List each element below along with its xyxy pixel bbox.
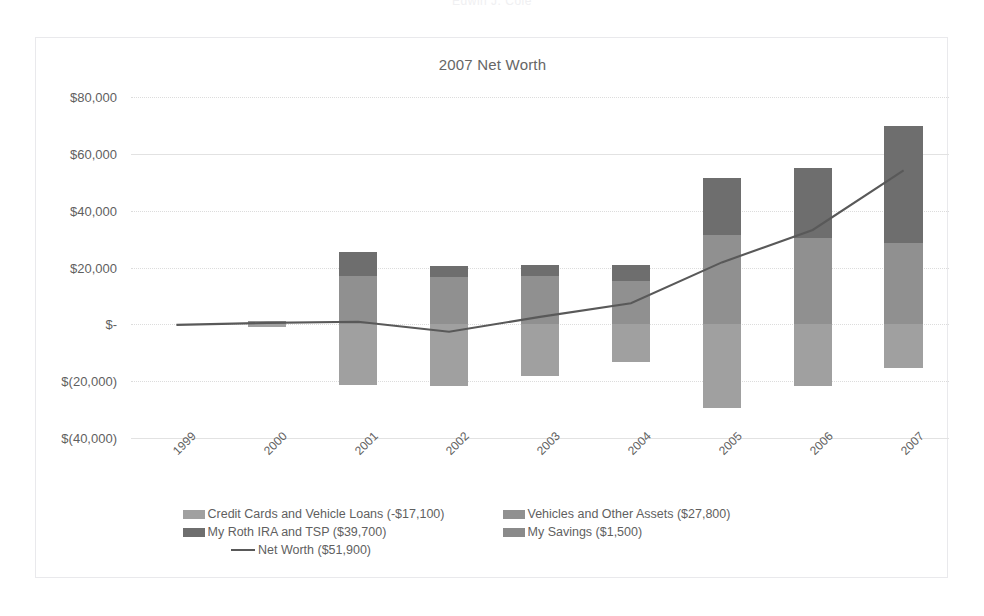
- legend-item[interactable]: Vehicles and Other Assets ($27,800): [503, 507, 803, 521]
- legend-row: My Roth IRA and TSP ($39,700)My Savings …: [36, 525, 949, 539]
- y-axis-tick: $20,000: [70, 260, 117, 275]
- y-axis-tick: $-: [105, 317, 117, 332]
- legend-label: My Savings ($1,500): [528, 525, 643, 539]
- legend-swatch-icon: [503, 510, 525, 519]
- legend-item[interactable]: Net Worth ($51,900): [231, 543, 371, 557]
- y-axis-tick: $(20,000): [61, 374, 117, 389]
- legend-row: Net Worth ($51,900): [36, 543, 949, 557]
- legend-swatch-icon: [183, 510, 205, 519]
- y-axis-tick: $80,000: [70, 90, 117, 105]
- legend-label: Vehicles and Other Assets ($27,800): [528, 507, 731, 521]
- chart-container: 2007 Net Worth $80,000$60,000$40,000$20,…: [35, 37, 948, 578]
- chart-title: 2007 Net Worth: [36, 56, 949, 73]
- legend-item[interactable]: My Roth IRA and TSP ($39,700): [183, 525, 503, 539]
- legend-row: Credit Cards and Vehicle Loans (-$17,100…: [36, 507, 949, 521]
- legend-item[interactable]: Credit Cards and Vehicle Loans (-$17,100…: [183, 507, 503, 521]
- legend-swatch-icon: [503, 528, 525, 537]
- legend-label: Net Worth ($51,900): [258, 543, 371, 557]
- chart-legend: Credit Cards and Vehicle Loans (-$17,100…: [36, 507, 949, 561]
- legend-swatch-icon: [183, 528, 205, 537]
- plot-area: $80,000$60,000$40,000$20,000$-$(20,000)$…: [131, 97, 949, 438]
- legend-label: My Roth IRA and TSP ($39,700): [208, 525, 387, 539]
- clipped-header-text: Edwin J. Cole: [0, 0, 984, 8]
- y-axis-tick: $60,000: [70, 146, 117, 161]
- legend-swatch-icon: [231, 549, 255, 551]
- legend-item[interactable]: My Savings ($1,500): [503, 525, 803, 539]
- net-worth-line: [176, 170, 903, 331]
- y-axis-tick: $40,000: [70, 203, 117, 218]
- legend-label: Credit Cards and Vehicle Loans (-$17,100…: [208, 507, 445, 521]
- net-worth-line-layer: [131, 97, 949, 438]
- y-axis-tick: $(40,000): [61, 431, 117, 446]
